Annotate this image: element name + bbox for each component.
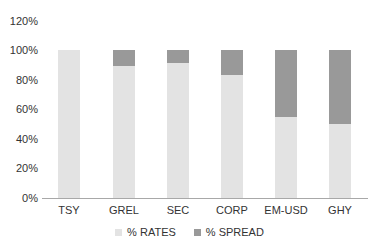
bar-segment-spread: [275, 50, 297, 117]
y-tick-label: 20%: [0, 162, 38, 174]
bar-segment-rates: [221, 75, 243, 198]
bar-segment-rates: [329, 124, 351, 198]
y-tick-label: 0%: [0, 192, 38, 204]
bar-segment-spread: [329, 50, 351, 124]
legend-swatch-icon: [194, 229, 201, 236]
x-tick-label: GHY: [310, 204, 370, 216]
bar-segment-rates: [58, 50, 80, 198]
x-tick-label: SEC: [148, 204, 208, 216]
x-tick-label: EM-USD: [256, 204, 316, 216]
legend: % RATES % SPREAD: [0, 225, 379, 239]
bar-grel: [113, 50, 135, 198]
legend-label: % RATES: [127, 226, 176, 238]
legend-label: % SPREAD: [206, 226, 264, 238]
bar-corp: [221, 50, 243, 198]
stacked-bar-chart: 120% 100% 80% 60% 40% 20% 0% TSY GREL SE…: [0, 0, 379, 247]
y-tick-label: 60%: [0, 103, 38, 115]
legend-item-spread[interactable]: % SPREAD: [194, 226, 264, 238]
y-tick-label: 120%: [0, 15, 38, 27]
y-tick-label: 100%: [0, 44, 38, 56]
x-axis-line: [42, 198, 368, 199]
legend-item-rates[interactable]: % RATES: [115, 226, 176, 238]
bar-sec: [167, 50, 189, 198]
x-tick-label: GREL: [94, 204, 154, 216]
bar-segment-spread: [167, 50, 189, 63]
bar-segment-rates: [275, 117, 297, 198]
bar-segment-rates: [113, 66, 135, 198]
bar-segment-spread: [221, 50, 243, 75]
x-tick-label: TSY: [39, 204, 99, 216]
bar-segment-rates: [167, 63, 189, 198]
y-tick-label: 40%: [0, 133, 38, 145]
bar-ghy: [329, 50, 351, 198]
y-tick-label: 80%: [0, 74, 38, 86]
bar-segment-spread: [113, 50, 135, 66]
legend-swatch-icon: [115, 229, 122, 236]
bar-tsy: [58, 50, 80, 198]
x-tick-label: CORP: [202, 204, 262, 216]
bar-em-usd: [275, 50, 297, 198]
